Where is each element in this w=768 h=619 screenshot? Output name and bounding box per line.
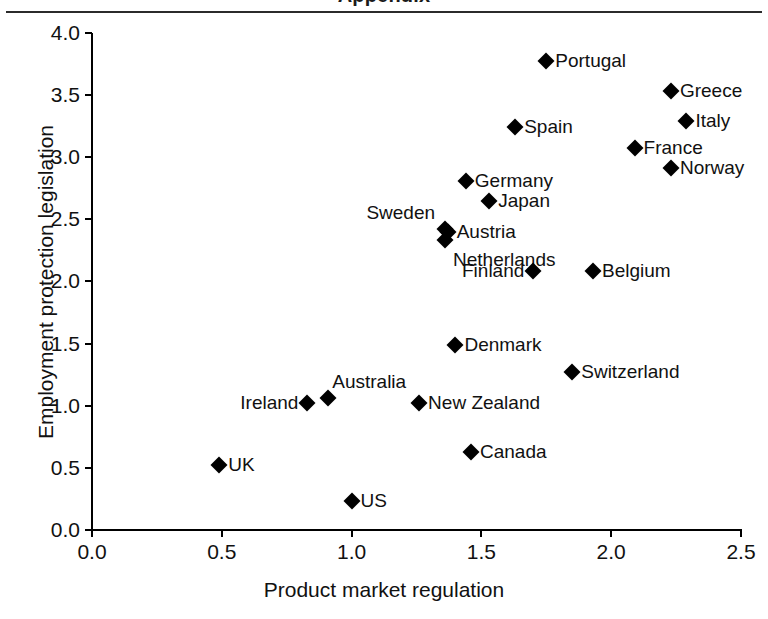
data-point-label: Spain bbox=[524, 117, 573, 136]
y-tick-mark bbox=[85, 280, 92, 282]
x-tick-label: 2.5 bbox=[706, 540, 768, 564]
header-divider-rule bbox=[6, 11, 762, 13]
y-tick-mark bbox=[85, 94, 92, 96]
x-tick-label: 0.0 bbox=[57, 540, 127, 564]
y-tick-mark bbox=[85, 218, 92, 220]
y-tick-mark bbox=[85, 467, 92, 469]
data-point-label: Sweden bbox=[366, 203, 435, 222]
data-point-label: Greece bbox=[680, 81, 742, 100]
x-tick-mark bbox=[740, 529, 742, 537]
x-tick-mark bbox=[351, 529, 353, 537]
data-point-label: Canada bbox=[480, 442, 547, 461]
y-axis-title: Employment protection legislation bbox=[34, 22, 58, 542]
x-tick-mark bbox=[480, 529, 482, 537]
x-tick-mark bbox=[221, 529, 223, 537]
y-tick-mark bbox=[85, 32, 92, 34]
data-point-label: Portugal bbox=[555, 51, 626, 70]
x-tick-label: 1.5 bbox=[446, 540, 516, 564]
data-point-label: Japan bbox=[498, 191, 550, 210]
y-tick-mark bbox=[85, 343, 92, 345]
y-tick-mark bbox=[85, 156, 92, 158]
x-tick-mark bbox=[610, 529, 612, 537]
data-point-label: Australia bbox=[332, 372, 406, 391]
data-point-label: New Zealand bbox=[428, 393, 540, 412]
data-point-label: Germany bbox=[475, 171, 553, 190]
x-tick-label: 0.5 bbox=[187, 540, 257, 564]
data-point-label: Denmark bbox=[464, 335, 541, 354]
data-point-label: Ireland bbox=[240, 393, 298, 412]
x-tick-label: 1.0 bbox=[317, 540, 387, 564]
x-tick-mark bbox=[91, 529, 93, 537]
plot-area bbox=[92, 33, 741, 530]
data-point-label: US bbox=[361, 491, 387, 510]
y-tick-mark bbox=[85, 405, 92, 407]
data-point-label: France bbox=[644, 138, 703, 157]
cropped-title-text: Appendix bbox=[0, 0, 768, 6]
x-tick-label: 2.0 bbox=[576, 540, 646, 564]
scatter-chart-figure: Appendix 4.03.53.02.52.01.51.00.50.0 0.0… bbox=[0, 0, 768, 619]
data-point-label: UK bbox=[228, 455, 254, 474]
data-point-label: Switzerland bbox=[581, 362, 679, 381]
data-point-label: Norway bbox=[680, 158, 744, 177]
data-point-label: Finland bbox=[462, 261, 524, 280]
data-point-label: Austria bbox=[457, 222, 516, 241]
data-point-label: Belgium bbox=[602, 261, 671, 280]
data-point-label: Italy bbox=[695, 111, 730, 130]
x-axis-title: Product market regulation bbox=[0, 578, 768, 602]
